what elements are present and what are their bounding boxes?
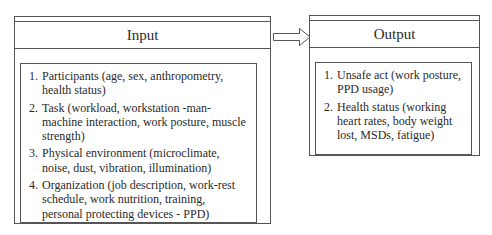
input-item: 4.Organization (job description, work-re… [29, 178, 248, 221]
input-item: 2.Task (workload, workstation -man-machi… [29, 101, 248, 144]
output-list-box: 1.Unsafe act (work posture, PPD usage) 2… [315, 62, 472, 155]
output-item: 2.Health status (working heart rates, bo… [324, 100, 463, 143]
output-list: 1.Unsafe act (work posture, PPD usage) 2… [324, 68, 463, 142]
input-title: Input [15, 22, 270, 49]
input-list: 1.Participants (age, sex, anthropometry,… [29, 69, 248, 221]
output-title: Output [310, 21, 479, 48]
output-box: Output 1.Unsafe act (work posture, PPD u… [309, 15, 480, 156]
output-item: 1.Unsafe act (work posture, PPD usage) [324, 68, 463, 97]
right-arrow-icon [273, 28, 311, 46]
input-box: Input 1.Participants (age, sex, anthropo… [14, 16, 271, 224]
input-item: 3.Physical environment (microclimate, no… [29, 146, 248, 175]
input-item: 1.Participants (age, sex, anthropometry,… [29, 69, 248, 98]
input-list-box: 1.Participants (age, sex, anthropometry,… [20, 63, 257, 223]
